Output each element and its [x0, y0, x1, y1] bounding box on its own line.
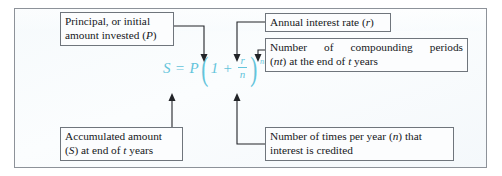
diagram-root: S = P ( 1 + r n ) nt Principal, or initi [0, 0, 502, 176]
formula-principal-P: P [190, 60, 199, 77]
callout-annual-interest-rate[interactable]: Annual interest rate (r) [265, 13, 391, 32]
formula-denominator-n: n [240, 68, 246, 80]
formula-one: 1 [211, 60, 219, 77]
callout-times-line2: interest is credited [270, 144, 449, 158]
compound-interest-formula: S = P ( 1 + r n ) nt [163, 56, 267, 81]
callout-rate-line1: Annual interest rate (r) [270, 16, 386, 30]
callout-accum-line2: (S) at end of t years [65, 144, 178, 158]
callout-periods-line1: Number of compounding periods [270, 41, 463, 55]
callout-accumulated-amount[interactable]: Accumulated amount (S) at end of t years [60, 127, 183, 161]
formula-fraction-r-over-n: r n [238, 55, 247, 80]
callout-periods-line2: (nt) at the end of t years [270, 55, 463, 69]
formula-numerator-r: r [240, 55, 245, 67]
formula-lhs-S: S [163, 60, 171, 77]
callout-accum-line1: Accumulated amount [65, 130, 178, 144]
callout-times-per-year[interactable]: Number of times per year (n) that intere… [265, 127, 454, 161]
formula-plus: + [218, 60, 237, 77]
callout-principal[interactable]: Principal, or initial amount invested (P… [60, 12, 174, 46]
callout-principal-line2: amount invested (P) [65, 29, 169, 43]
formula-equals: = [171, 60, 190, 77]
callout-times-line1: Number of times per year (n) that [270, 130, 449, 144]
callout-compounding-periods[interactable]: Number of compounding periods (nt) at th… [265, 38, 468, 72]
callout-principal-line1: Principal, or initial [65, 15, 169, 29]
